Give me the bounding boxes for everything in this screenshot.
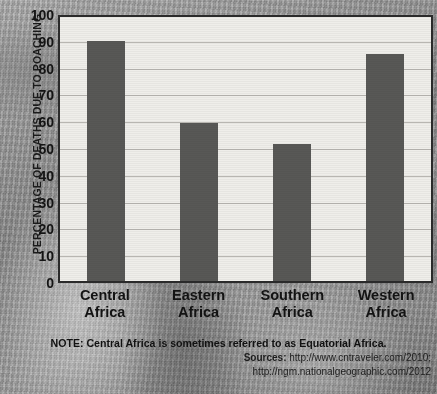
y-tick-label: 50 (20, 142, 54, 156)
y-axis-tick-labels: 1009080706050403020100 (20, 15, 54, 283)
source-line-2: http://ngm.nationalgeographic.com/2012 (0, 366, 437, 377)
category-label-line: Western (343, 287, 429, 304)
bar (87, 41, 125, 281)
y-tick-label: 70 (20, 88, 54, 102)
sources-label: Sources: (244, 352, 287, 363)
category-label-line: Africa (62, 304, 148, 321)
category-label-line: Southern (249, 287, 335, 304)
category-label-line: Africa (249, 304, 335, 321)
bar (180, 123, 218, 281)
category-label-line: Eastern (156, 287, 242, 304)
y-tick-label: 90 (20, 35, 54, 49)
category-label: SouthernAfrica (249, 287, 335, 320)
source-line-1: Sources: http://www.cntraveler.com/2010; (0, 352, 437, 363)
category-label-line: Central (62, 287, 148, 304)
y-tick-label: 10 (20, 249, 54, 263)
y-tick-label: 80 (20, 62, 54, 76)
note-text: NOTE: Central Africa is sometimes referr… (0, 337, 437, 349)
x-axis-category-labels: CentralAfricaEasternAfricaSouthernAfrica… (58, 287, 433, 320)
footnotes: NOTE: Central Africa is sometimes referr… (0, 337, 437, 377)
bar-series (60, 17, 431, 281)
y-tick-label: 30 (20, 196, 54, 210)
bar (273, 144, 311, 281)
y-tick-label: 20 (20, 222, 54, 236)
chart-figure: PERCENTAGE OF DEATHS DUE TO POACHING 100… (0, 0, 437, 394)
y-tick-label: 100 (20, 8, 54, 22)
category-label: CentralAfrica (62, 287, 148, 320)
source-url-1: http://www.cntraveler.com/2010; (289, 352, 431, 363)
category-label: EasternAfrica (156, 287, 242, 320)
plot-area (58, 15, 433, 283)
category-label-line: Africa (343, 304, 429, 321)
y-tick-label: 40 (20, 169, 54, 183)
y-tick-label: 0 (20, 276, 54, 290)
category-label-line: Africa (156, 304, 242, 321)
category-label: WesternAfrica (343, 287, 429, 320)
source-url-2: http://ngm.nationalgeographic.com/2012 (253, 366, 431, 377)
y-tick-label: 60 (20, 115, 54, 129)
bar (366, 54, 404, 281)
